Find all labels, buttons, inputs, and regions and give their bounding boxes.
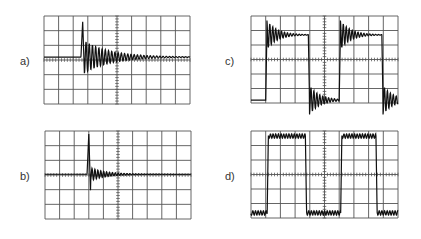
scope-panel-d: [250, 130, 399, 219]
panel-label-d: d): [225, 170, 235, 182]
panel-label-c: c): [225, 55, 234, 67]
panel-label-b: b): [20, 170, 30, 182]
panel-label-a: a): [20, 55, 30, 67]
scope-panel-c: [250, 15, 399, 104]
scope-panel-a: [43, 15, 191, 105]
scope-panel-b: [44, 130, 192, 220]
